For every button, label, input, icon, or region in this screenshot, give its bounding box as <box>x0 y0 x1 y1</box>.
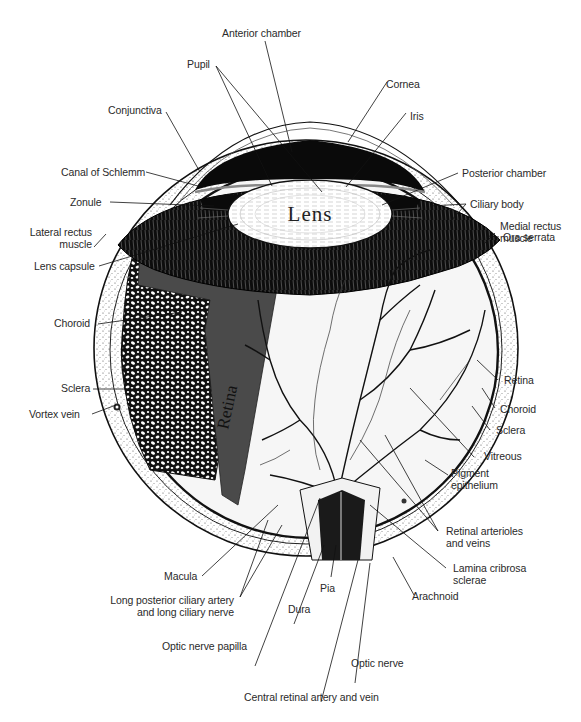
label-lateral-rectus-line1: Lateral rectus <box>24 226 92 238</box>
label-choroid-right: Choroid <box>500 403 536 415</box>
label-iris: Iris <box>410 110 424 122</box>
label-ora-serrata: Ora serrata <box>503 231 555 243</box>
label-anterior-chamber: Anterior chamber <box>222 27 301 39</box>
label-conjunctiva: Conjunctiva <box>108 104 162 116</box>
label-retina-right: Retina <box>504 374 534 386</box>
label-optic-nerve: Optic nerve <box>351 657 404 669</box>
label-central-retinal-artery-and-vein: Central retinal artery and vein <box>244 691 379 703</box>
label-lateral-rectus-line2: muscle <box>24 238 92 250</box>
label-pigment-line2: epithelium <box>451 479 498 491</box>
label-lamina-line2: sclerae <box>453 574 526 586</box>
lens-inline-label: Lens <box>288 202 333 226</box>
label-zonule: Zonule <box>70 196 102 208</box>
label-vortex-vein: Vortex vein <box>29 408 80 420</box>
label-lamina-cribrosa-sclerae: Lamina cribrosa sclerae <box>453 562 526 586</box>
label-long-posterior-ciliary: Long posterior ciliary artery and long c… <box>90 594 234 618</box>
eye-anatomy-diagram: Retina <box>0 0 581 722</box>
label-ciliary-body: Ciliary body <box>470 198 524 210</box>
label-pigment-line1: Pigment <box>451 467 498 479</box>
label-arachnoid: Arachnoid <box>412 590 458 602</box>
label-retinal-arterioles-and-veins: Retinal arterioles and veins <box>446 525 523 549</box>
label-retinal-arterioles-line2: and veins <box>446 537 523 549</box>
label-lens-capsule: Lens capsule <box>34 260 95 272</box>
label-pia: Pia <box>320 582 335 594</box>
label-canal-of-schlemm: Canal of Schlemm <box>61 166 145 178</box>
label-optic-nerve-papilla: Optic nerve papilla <box>162 640 247 652</box>
label-vitreous: Vitreous <box>484 450 522 462</box>
label-lamina-line1: Lamina cribrosa <box>453 562 526 574</box>
label-pupil: Pupil <box>187 58 210 70</box>
label-dura: Dura <box>288 603 310 615</box>
label-cornea: Cornea <box>386 78 420 90</box>
label-posterior-chamber: Posterior chamber <box>462 167 546 179</box>
label-sclera-left: Sclera <box>61 382 90 394</box>
label-lateral-rectus-muscle: Lateral rectus muscle <box>24 226 92 250</box>
label-sclera-right: Sclera <box>496 424 525 436</box>
label-choroid-left: Choroid <box>54 317 90 329</box>
label-long-posterior-line2: and long ciliary nerve <box>90 606 234 618</box>
label-long-posterior-line1: Long posterior ciliary artery <box>90 594 234 606</box>
label-macula: Macula <box>164 570 197 582</box>
label-retinal-arterioles-line1: Retinal arterioles <box>446 525 523 537</box>
label-pigment-epithelium: Pigment epithelium <box>451 467 498 491</box>
